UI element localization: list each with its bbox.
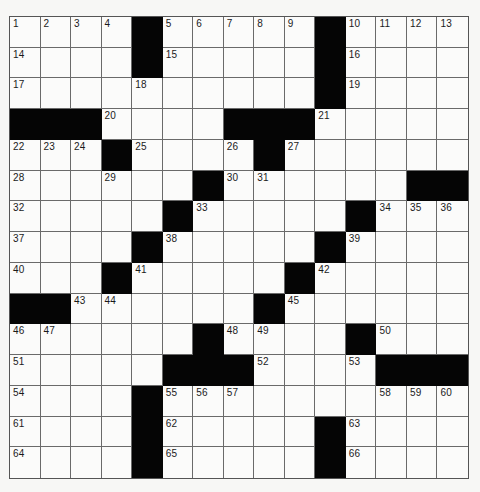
grid-cell[interactable] <box>71 324 102 355</box>
grid-cell[interactable] <box>285 201 316 232</box>
grid-cell[interactable] <box>71 232 102 263</box>
grid-cell[interactable] <box>102 386 133 417</box>
grid-cell[interactable] <box>254 201 285 232</box>
grid-cell[interactable] <box>346 263 377 294</box>
grid-cell[interactable]: 25 <box>132 140 163 171</box>
grid-cell[interactable] <box>224 447 255 478</box>
grid-cell[interactable]: 35 <box>407 201 438 232</box>
grid-cell[interactable] <box>376 78 407 109</box>
grid-cell[interactable]: 10 <box>346 17 377 48</box>
grid-cell[interactable] <box>285 417 316 448</box>
grid-cell[interactable]: 52 <box>254 355 285 386</box>
grid-cell[interactable]: 21 <box>315 109 346 140</box>
grid-cell[interactable] <box>376 447 407 478</box>
grid-cell[interactable]: 29 <box>102 171 133 202</box>
grid-cell[interactable] <box>376 294 407 325</box>
grid-cell[interactable] <box>224 232 255 263</box>
grid-cell[interactable] <box>193 48 224 79</box>
grid-cell[interactable] <box>132 201 163 232</box>
grid-cell[interactable]: 3 <box>71 17 102 48</box>
grid-cell[interactable]: 46 <box>10 324 41 355</box>
grid-cell[interactable]: 24 <box>71 140 102 171</box>
grid-cell[interactable]: 66 <box>346 447 377 478</box>
grid-cell[interactable]: 6 <box>193 17 224 48</box>
grid-cell[interactable] <box>285 232 316 263</box>
grid-cell[interactable] <box>224 48 255 79</box>
grid-cell[interactable]: 32 <box>10 201 41 232</box>
grid-cell[interactable] <box>193 140 224 171</box>
grid-cell[interactable]: 44 <box>102 294 133 325</box>
grid-cell[interactable]: 36 <box>437 201 468 232</box>
grid-cell[interactable] <box>437 447 468 478</box>
grid-cell[interactable]: 11 <box>376 17 407 48</box>
grid-cell[interactable]: 60 <box>437 386 468 417</box>
grid-cell[interactable] <box>254 78 285 109</box>
grid-cell[interactable] <box>315 171 346 202</box>
grid-cell[interactable] <box>41 48 72 79</box>
grid-cell[interactable] <box>254 447 285 478</box>
grid-cell[interactable]: 41 <box>132 263 163 294</box>
grid-cell[interactable] <box>407 324 438 355</box>
grid-cell[interactable]: 17 <box>10 78 41 109</box>
grid-cell[interactable] <box>346 140 377 171</box>
grid-cell[interactable]: 8 <box>254 17 285 48</box>
grid-cell[interactable] <box>437 294 468 325</box>
grid-cell[interactable] <box>437 48 468 79</box>
grid-cell[interactable] <box>346 386 377 417</box>
grid-cell[interactable] <box>163 263 194 294</box>
grid-cell[interactable] <box>71 447 102 478</box>
grid-cell[interactable] <box>407 109 438 140</box>
grid-cell[interactable] <box>346 294 377 325</box>
grid-cell[interactable]: 28 <box>10 171 41 202</box>
grid-cell[interactable] <box>132 294 163 325</box>
grid-cell[interactable] <box>407 232 438 263</box>
grid-cell[interactable]: 26 <box>224 140 255 171</box>
grid-cell[interactable] <box>254 263 285 294</box>
grid-cell[interactable]: 2 <box>41 17 72 48</box>
grid-cell[interactable] <box>407 263 438 294</box>
grid-cell[interactable]: 61 <box>10 417 41 448</box>
grid-cell[interactable]: 37 <box>10 232 41 263</box>
grid-cell[interactable]: 13 <box>437 17 468 48</box>
grid-cell[interactable]: 23 <box>41 140 72 171</box>
grid-cell[interactable] <box>41 417 72 448</box>
grid-cell[interactable]: 18 <box>132 78 163 109</box>
grid-cell[interactable]: 15 <box>163 48 194 79</box>
grid-cell[interactable] <box>41 201 72 232</box>
grid-cell[interactable] <box>71 78 102 109</box>
grid-cell[interactable] <box>285 78 316 109</box>
grid-cell[interactable] <box>41 78 72 109</box>
grid-cell[interactable] <box>315 324 346 355</box>
grid-cell[interactable]: 22 <box>10 140 41 171</box>
grid-cell[interactable] <box>132 355 163 386</box>
grid-cell[interactable] <box>224 263 255 294</box>
grid-cell[interactable] <box>376 263 407 294</box>
grid-cell[interactable] <box>346 171 377 202</box>
grid-cell[interactable] <box>376 232 407 263</box>
grid-cell[interactable] <box>102 324 133 355</box>
grid-cell[interactable] <box>193 78 224 109</box>
grid-cell[interactable]: 50 <box>376 324 407 355</box>
grid-cell[interactable] <box>224 294 255 325</box>
grid-cell[interactable] <box>224 201 255 232</box>
grid-cell[interactable]: 43 <box>71 294 102 325</box>
grid-cell[interactable] <box>285 355 316 386</box>
grid-cell[interactable] <box>376 48 407 79</box>
grid-cell[interactable] <box>315 201 346 232</box>
grid-cell[interactable] <box>437 417 468 448</box>
grid-cell[interactable] <box>224 417 255 448</box>
grid-cell[interactable] <box>407 48 438 79</box>
grid-cell[interactable] <box>102 447 133 478</box>
grid-cell[interactable] <box>71 386 102 417</box>
grid-cell[interactable] <box>315 386 346 417</box>
grid-cell[interactable] <box>193 417 224 448</box>
grid-cell[interactable] <box>132 109 163 140</box>
grid-cell[interactable]: 65 <box>163 447 194 478</box>
grid-cell[interactable]: 7 <box>224 17 255 48</box>
grid-cell[interactable]: 12 <box>407 17 438 48</box>
grid-cell[interactable] <box>437 263 468 294</box>
grid-cell[interactable] <box>41 386 72 417</box>
grid-cell[interactable] <box>376 140 407 171</box>
grid-cell[interactable]: 45 <box>285 294 316 325</box>
grid-cell[interactable] <box>163 294 194 325</box>
